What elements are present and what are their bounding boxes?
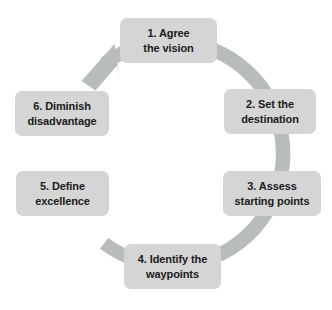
cycle-step-5-line1: 5. Define xyxy=(40,180,85,192)
cycle-step-2-line2: destination xyxy=(241,113,299,125)
cycle-step-5[interactable]: 5. Defineexcellence xyxy=(16,171,109,216)
cycle-step-6-label: 6. Diminishdisadvantage xyxy=(19,99,105,128)
cycle-step-1[interactable]: 1. Agreethe vision xyxy=(120,18,217,63)
cycle-step-6-line2: disadvantage xyxy=(27,115,96,127)
cycle-step-4-label: 4. Identify thewaypoints xyxy=(128,252,217,281)
cycle-step-1-label: 1. Agreethe vision xyxy=(124,26,213,55)
cycle-step-3-line1: 3. Assess xyxy=(247,180,296,192)
cycle-step-3-line2: starting points xyxy=(235,195,310,207)
cycle-ring-band xyxy=(100,35,290,273)
cycle-step-4[interactable]: 4. Identify thewaypoints xyxy=(124,244,221,289)
cycle-step-5-label: 5. Defineexcellence xyxy=(20,179,105,208)
cycle-step-3[interactable]: 3. Assessstarting points xyxy=(223,171,321,216)
cycle-step-1-line1: 1. Agree xyxy=(147,27,189,39)
cycle-step-6-line1: 6. Diminish xyxy=(33,100,91,112)
cycle-step-4-line1: 4. Identify the xyxy=(138,253,207,265)
cycle-step-5-line2: excellence xyxy=(35,195,90,207)
cycle-step-2-label: 2. Set thedestination xyxy=(228,97,312,126)
cycle-step-2-line1: 2. Set the xyxy=(246,98,294,110)
cycle-step-2[interactable]: 2. Set thedestination xyxy=(224,89,316,134)
cycle-step-4-line2: waypoints xyxy=(146,268,199,280)
cycle-step-1-line2: the vision xyxy=(143,42,193,54)
cycle-arrowhead-icon xyxy=(82,44,120,91)
cycle-step-3-label: 3. Assessstarting points xyxy=(227,179,317,208)
cycle-diagram: 1. Agreethe vision 2. Set thedestination… xyxy=(0,0,332,310)
cycle-step-6[interactable]: 6. Diminishdisadvantage xyxy=(15,91,109,136)
